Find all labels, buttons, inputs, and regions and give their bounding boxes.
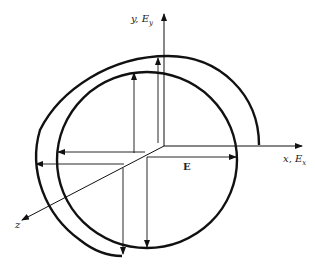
helix-back-curve	[36, 56, 259, 256]
z-axis-label: z	[14, 219, 21, 230]
y-axis-label: y, Ey	[130, 13, 154, 27]
polarization-diagram: y, Ey x, Ex z E	[0, 0, 315, 272]
field-vector-label: E	[183, 161, 191, 172]
z-axis	[22, 146, 164, 220]
x-axis-label: x, Ex	[283, 153, 306, 167]
